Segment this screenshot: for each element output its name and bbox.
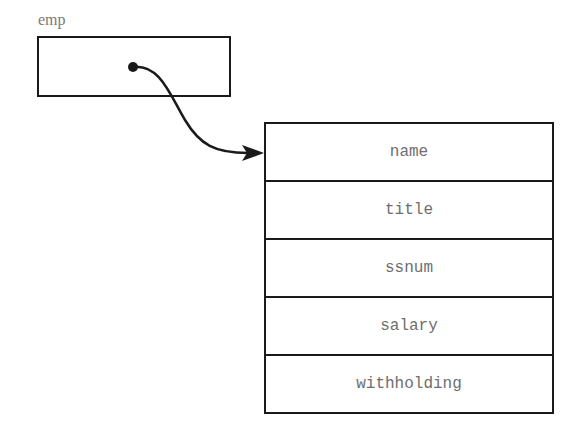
struct-record: name title ssnum salary withholding [264, 122, 554, 414]
field-salary: salary [266, 298, 552, 356]
field-ssnum: ssnum [266, 240, 552, 298]
field-withholding: withholding [266, 356, 552, 414]
field-name: name [266, 124, 552, 182]
field-title: title [266, 182, 552, 240]
